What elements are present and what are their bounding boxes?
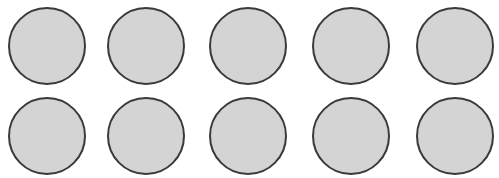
circle-r2-c2	[107, 97, 185, 175]
circle-r1-c2	[107, 7, 185, 85]
circle-r1-c3	[209, 7, 287, 85]
circle-r2-c5	[416, 97, 494, 175]
circle-r1-c4	[312, 7, 390, 85]
circle-r2-c3	[209, 97, 287, 175]
circle-r1-c5	[416, 7, 494, 85]
circle-r2-c1	[8, 97, 86, 175]
circle-r1-c1	[8, 7, 86, 85]
circle-r2-c4	[312, 97, 390, 175]
